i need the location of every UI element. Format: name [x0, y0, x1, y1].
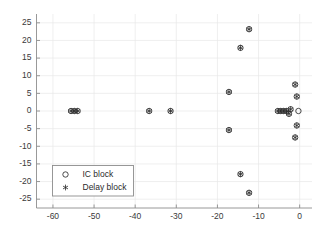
- y-tick-label: -25: [19, 193, 32, 203]
- y-tick-label: -10: [19, 141, 32, 151]
- figure-canvas: -60-50-40-30-20-100 -25-20-15-10-5051015…: [0, 0, 324, 241]
- plot-background: [0, 0, 324, 241]
- legend[interactable]: IC blockDelay block: [53, 166, 134, 197]
- y-tick-label: 5: [27, 88, 32, 98]
- x-tick-label: -40: [129, 211, 142, 221]
- x-tick-label: -50: [88, 211, 101, 221]
- x-tick-label: -60: [47, 211, 60, 221]
- legend-label: IC block: [83, 169, 114, 179]
- y-tick-label: 15: [22, 52, 32, 62]
- y-tick-label: -15: [19, 158, 32, 168]
- y-tick-label: 25: [22, 17, 32, 27]
- y-tick-label: -20: [19, 176, 32, 186]
- y-tick-label: 0: [27, 105, 32, 115]
- y-tick-label: -5: [24, 123, 32, 133]
- y-tick-label: 10: [22, 70, 32, 80]
- x-tick-label: -20: [211, 211, 224, 221]
- legend-label: Delay block: [83, 182, 128, 192]
- x-tick-label: -30: [170, 211, 183, 221]
- scatter-plot[interactable]: -60-50-40-30-20-100 -25-20-15-10-5051015…: [0, 0, 324, 241]
- x-tick-label: 0: [297, 211, 302, 221]
- x-tick-label: -10: [252, 211, 265, 221]
- y-tick-label: 20: [22, 35, 32, 45]
